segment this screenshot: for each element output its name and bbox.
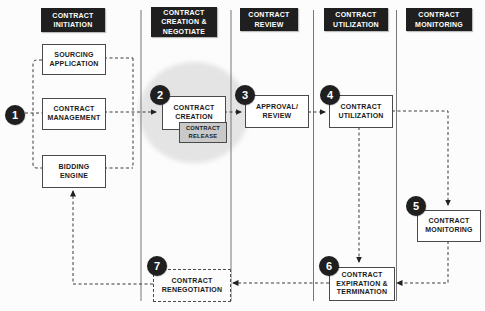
step-badge-5: 5 (406, 196, 426, 216)
column-header-initiation-label: CONTRACT INITIATION (52, 11, 93, 29)
connector-utilization-monitoring (392, 111, 448, 205)
node-contract-release: CONTRACT RELEASE (179, 122, 227, 143)
step-badge-5-number: 5 (413, 200, 419, 212)
node-contract-renegotiation-label: CONTRACT RENEGOTIATION (162, 277, 222, 295)
column-divider-lines (141, 10, 397, 301)
node-approval-review: APPROVAL/ REVIEW (245, 95, 309, 128)
column-header-creation-negotiate: CONTRACT CREATION & NEGOTIATE (151, 7, 217, 37)
column-header-utilization: CONTRACT UTILIZATION (324, 8, 388, 31)
column-header-initiation: CONTRACT INITIATION (41, 8, 105, 32)
step-badge-6: 6 (319, 256, 339, 276)
node-contract-expiration-termination-label: CONTRACT EXPIRATION & TERMINATION (336, 271, 388, 297)
step-badge-1: 1 (5, 105, 25, 125)
step-badge-4: 4 (320, 85, 340, 105)
step-badge-3-number: 3 (242, 89, 248, 101)
step-badge-7-number: 7 (154, 260, 160, 272)
column-header-monitoring: CONTRACT MONITORING (406, 8, 472, 31)
node-sourcing-application-label: SOURCING APPLICATION (49, 51, 98, 69)
connector-initiation-bracket (33, 60, 42, 168)
column-header-review-label: CONTRACT REVIEW (248, 10, 289, 28)
node-contract-monitoring: CONTRACT MONITORING (417, 210, 481, 242)
node-contract-monitoring-label: CONTRACT MONITORING (425, 217, 472, 235)
connector-feeder-line (104, 58, 133, 168)
node-approval-review-label: APPROVAL/ REVIEW (256, 103, 298, 121)
node-contract-management: CONTRACT MANAGEMENT (42, 98, 106, 130)
column-header-utilization-label: CONTRACT UTILIZATION (333, 10, 379, 28)
node-contract-renegotiation: CONTRACT RENEGOTIATION (153, 269, 231, 302)
node-contract-creation-label: CONTRACT CREATION (174, 104, 215, 122)
column-header-monitoring-label: CONTRACT MONITORING (415, 10, 463, 28)
connector-monitoring-expiration (397, 241, 448, 283)
step-badge-4-number: 4 (327, 89, 333, 101)
column-header-creation-negotiate-label: CONTRACT CREATION & NEGOTIATE (161, 8, 207, 35)
node-bidding-engine: BIDDING ENGINE (42, 155, 106, 188)
step-badge-3: 3 (235, 85, 255, 105)
step-badge-2-number: 2 (157, 89, 163, 101)
step-badge-7: 7 (147, 256, 167, 276)
node-contract-expiration-termination: CONTRACT EXPIRATION & TERMINATION (329, 267, 395, 301)
node-contract-release-label: CONTRACT RELEASE (186, 125, 220, 140)
step-badge-6-number: 6 (326, 260, 332, 272)
node-sourcing-application: SOURCING APPLICATION (42, 44, 106, 75)
node-contract-utilization-label: CONTRACT UTILIZATION (338, 103, 383, 121)
step-badge-2: 2 (150, 85, 170, 105)
node-bidding-engine-label: BIDDING ENGINE (59, 163, 90, 181)
step-badge-1-number: 1 (12, 109, 18, 121)
column-header-review: CONTRACT REVIEW (240, 8, 298, 31)
contract-lifecycle-diagram: CONTRACT INITIATION CONTRACT CREATION & … (0, 0, 485, 311)
node-contract-management-label: CONTRACT MANAGEMENT (48, 105, 101, 123)
